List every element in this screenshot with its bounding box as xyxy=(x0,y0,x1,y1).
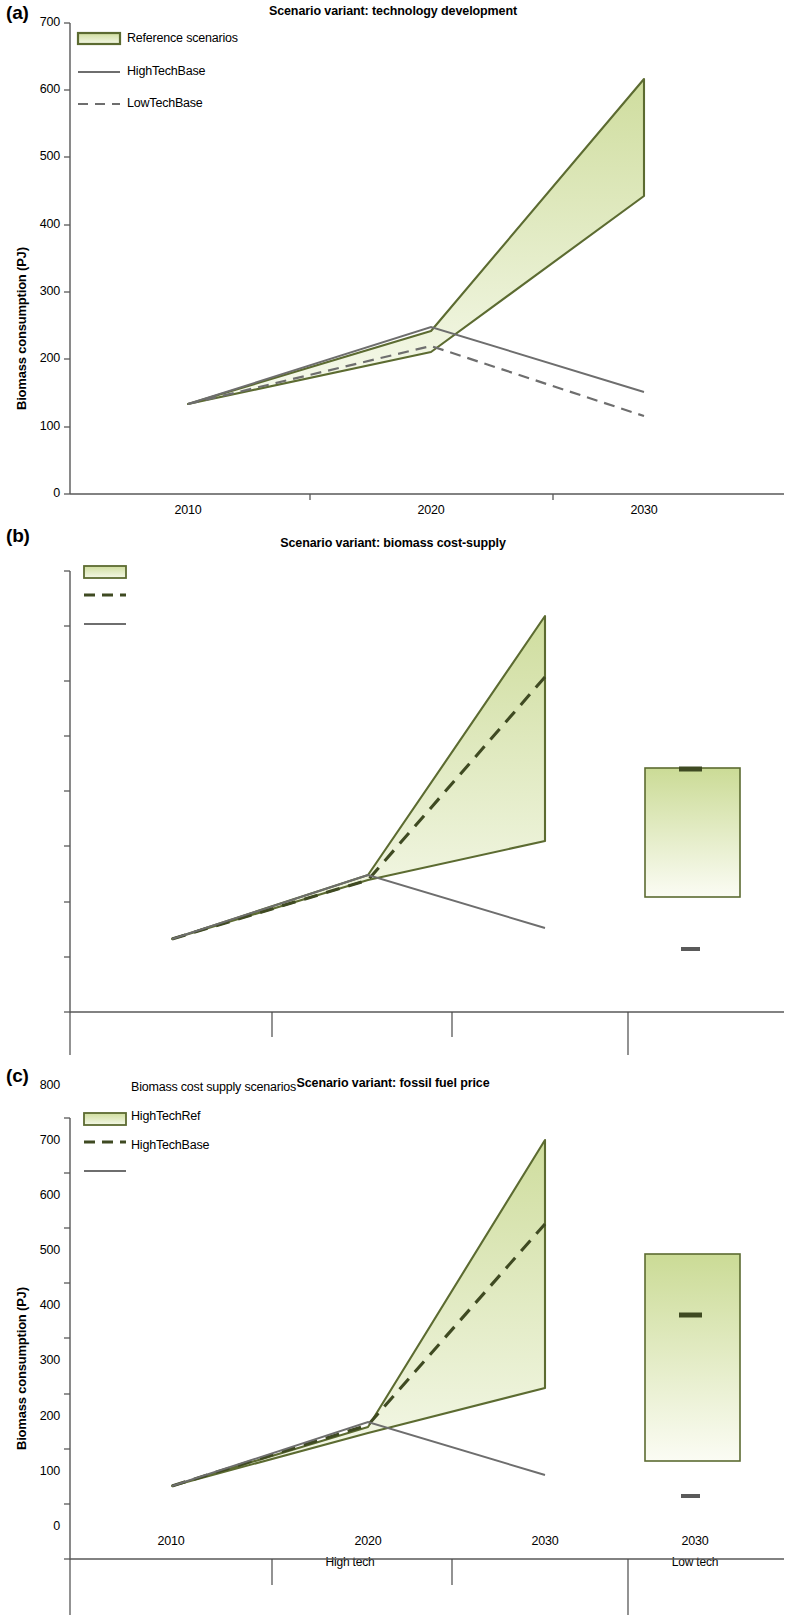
panel-a-ytick-700: 700 xyxy=(16,15,60,29)
panel-c-plot xyxy=(0,1055,786,1615)
panel-b-plot xyxy=(0,515,786,1055)
panel-c: (c) Scenario variant: fossil fuel price … xyxy=(0,1055,786,1615)
panel-c-lowtech-box xyxy=(645,1254,740,1461)
panel-c-category-separators xyxy=(70,1559,628,1615)
panel-a-ytick-500: 500 xyxy=(16,149,60,163)
panel-a-ytick-200: 200 xyxy=(16,351,60,365)
panel-c-scenario-band xyxy=(172,1140,545,1486)
panel-b: (b) Scenario variant: biomass cost-suppl… xyxy=(0,515,786,1055)
panel-a-ytick-100: 100 xyxy=(16,419,60,433)
panel-a-ytick-300: 300 xyxy=(16,284,60,298)
panel-c-y-ticks xyxy=(64,1118,70,1559)
panel-a-ytick-600: 600 xyxy=(16,82,60,96)
panel-a-legend-label-lowtechbase: LowTechBase xyxy=(127,96,203,110)
panel-a-reference-band xyxy=(188,79,644,404)
panel-a-x-ticks xyxy=(310,494,553,500)
panel-a: (a) Scenario variant: technology develop… xyxy=(0,0,786,515)
panel-b-category-separators xyxy=(70,1012,628,1055)
panel-a-legend-label-hightechbase: HighTechBase xyxy=(127,64,205,78)
panel-b-y-ticks xyxy=(64,571,70,1012)
panel-a-plot xyxy=(0,0,786,515)
panel-b-scenario-band xyxy=(172,616,545,939)
panel-b-lowtech-box xyxy=(645,768,740,897)
panel-a-lowtechbase-line xyxy=(188,346,644,416)
panel-a-y-ticks xyxy=(64,23,70,494)
panel-a-ytick-400: 400 xyxy=(16,217,60,231)
panel-a-legend-label-band: Reference scenarios xyxy=(127,31,238,45)
panel-a-ytick-0: 0 xyxy=(16,486,60,500)
panel-b-hightechbase-line xyxy=(172,875,545,939)
